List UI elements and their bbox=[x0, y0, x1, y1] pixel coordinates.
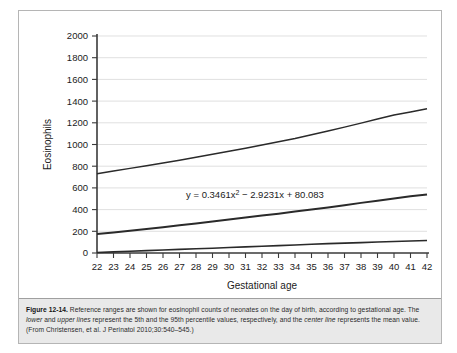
y-tick-label: 400 bbox=[72, 204, 88, 215]
x-axis-tick-labels: 2223242526272829303132333435363738394041… bbox=[92, 261, 433, 272]
y-tick-label: 1200 bbox=[67, 117, 88, 128]
caption-segment-3: represent the 5th and the 95th percentil… bbox=[91, 316, 305, 323]
y-axis-tick-labels: 0200400600800100012001400160018002000 bbox=[67, 30, 88, 258]
x-tick-label: 35 bbox=[306, 261, 317, 272]
x-tick-label: 29 bbox=[207, 261, 218, 272]
x-tick-label: 33 bbox=[273, 261, 284, 272]
y-tick-label: 0 bbox=[83, 247, 88, 258]
x-tick-label: 26 bbox=[158, 261, 169, 272]
eosinophils-line-chart: 0200400600800100012001400160018002000 22… bbox=[19, 11, 441, 298]
figure-caption-text: Figure 12-14. Reference ranges are shown… bbox=[26, 305, 433, 336]
x-tick-label: 32 bbox=[257, 261, 268, 272]
y-axis-title: Eosinophils bbox=[42, 119, 53, 170]
x-tick-label: 38 bbox=[356, 261, 367, 272]
x-tick-label: 34 bbox=[290, 261, 301, 272]
x-tick-label: 37 bbox=[339, 261, 350, 272]
y-tick-label: 1800 bbox=[67, 52, 88, 63]
x-axis-title: Gestational age bbox=[227, 280, 297, 291]
x-tick-label: 31 bbox=[240, 261, 251, 272]
x-tick-label: 28 bbox=[191, 261, 202, 272]
y-tick-label: 800 bbox=[72, 161, 88, 172]
y-tick-label: 200 bbox=[72, 226, 88, 237]
x-tick-label: 36 bbox=[323, 261, 334, 272]
x-tick-label: 22 bbox=[92, 261, 103, 272]
x-tick-label: 41 bbox=[405, 261, 416, 272]
y-tick-label: 1000 bbox=[67, 139, 88, 150]
caption-segment-2: and bbox=[42, 316, 57, 323]
y-tick-label: 600 bbox=[72, 182, 88, 193]
y-tick-label: 1400 bbox=[67, 96, 88, 107]
series-line bbox=[97, 194, 427, 233]
figure-container: 0200400600800100012001400160018002000 22… bbox=[18, 10, 442, 344]
x-tick-label: 27 bbox=[174, 261, 185, 272]
x-tick-label: 39 bbox=[372, 261, 383, 272]
figure-caption-panel: Figure 12-14. Reference ranges are shown… bbox=[19, 298, 441, 343]
x-tick-label: 25 bbox=[141, 261, 152, 272]
y-tick-label: 2000 bbox=[67, 30, 88, 41]
y-tick-label: 1600 bbox=[67, 74, 88, 85]
caption-italic-lower: lower bbox=[26, 316, 42, 323]
gridlines bbox=[97, 36, 427, 231]
caption-segment-1: Reference ranges are shown for eosinophi… bbox=[68, 306, 419, 313]
data-series bbox=[97, 109, 427, 253]
series-line bbox=[97, 241, 427, 253]
figure-number: Figure 12-14. bbox=[26, 306, 68, 313]
x-tick-label: 42 bbox=[422, 261, 433, 272]
regression-equation-annotation: y = 0.3461x2 − 2.9231x + 80.083 bbox=[186, 189, 324, 201]
x-tick-label: 40 bbox=[389, 261, 400, 272]
series-line bbox=[97, 109, 427, 174]
caption-italic-upper-lines: upper lines bbox=[57, 316, 90, 323]
chart-plot-panel: 0200400600800100012001400160018002000 22… bbox=[19, 11, 441, 298]
caption-italic-center-line: center line bbox=[304, 316, 335, 323]
x-tick-label: 24 bbox=[125, 261, 136, 272]
x-tick-label: 23 bbox=[108, 261, 119, 272]
x-tick-label: 30 bbox=[224, 261, 235, 272]
